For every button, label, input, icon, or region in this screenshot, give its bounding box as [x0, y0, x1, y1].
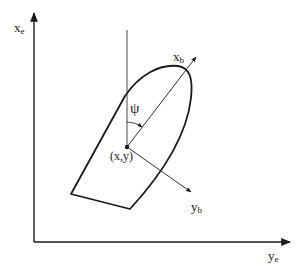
heading-angle-arc: [127, 122, 142, 127]
earth-x-axis-label-sub: e: [21, 26, 25, 36]
earth-y-axis-label-sub: e: [275, 254, 279, 264]
body-x-axis-label-sub: b: [180, 55, 185, 65]
heading-angle-label: ψ: [130, 101, 139, 116]
position-label: (x,y): [110, 150, 133, 162]
body-y-axis: [127, 147, 191, 192]
earth-x-axis-label: xe: [14, 21, 25, 36]
body-y-axis-label-sub: b: [198, 205, 203, 215]
ship-frame-diagram: [0, 0, 308, 275]
body-y-axis-label: yb: [191, 200, 202, 215]
body-x-axis-label: xb: [173, 50, 184, 65]
ship-hull: [71, 66, 192, 209]
earth-y-axis-label: ye: [268, 249, 279, 264]
